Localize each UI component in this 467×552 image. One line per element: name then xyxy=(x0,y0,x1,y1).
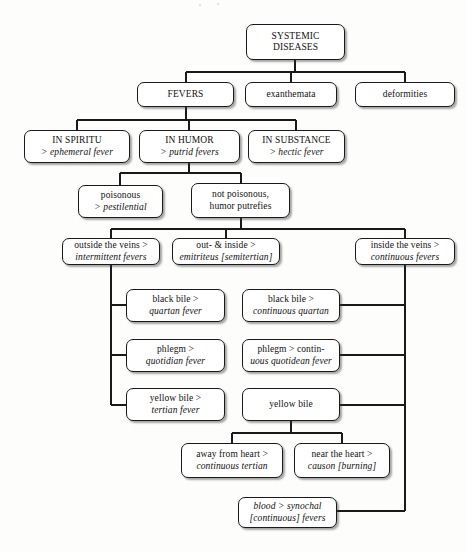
node-inside-the-veins[interactable]: inside the veins > continuous fevers xyxy=(355,238,455,265)
node-label: not poisonous, humor putrefies xyxy=(207,189,275,211)
scan-artifact xyxy=(196,2,232,9)
node-poisonous[interactable]: poisonous > pestilential xyxy=(78,185,163,218)
node-label: IN SPIRITU > ephemeral fever xyxy=(38,135,116,157)
flowchart-diagram: SYSTEMIC DISEASES FEVERS exanthemata def… xyxy=(0,0,467,552)
node-out-and-inside[interactable]: out- & inside > emitriteus [semitertian] xyxy=(172,238,280,265)
node-yellow-bile[interactable]: yellow bile xyxy=(242,388,340,421)
node-systemic-diseases[interactable]: SYSTEMIC DISEASES xyxy=(246,24,345,60)
node-in-substance[interactable]: IN SUBSTANCE > hectic fever xyxy=(248,130,345,163)
node-yellow-bile-tertian[interactable]: yellow bile > tertian fever xyxy=(126,388,225,421)
node-label: blood > synochal [continuous] fevers xyxy=(246,501,328,523)
node-label: IN SUBSTANCE > hectic fever xyxy=(259,135,333,157)
node-label: yellow bile xyxy=(266,399,316,410)
node-black-bile-quartan[interactable]: black bile > quartan fever xyxy=(126,289,225,322)
node-label: SYSTEMIC DISEASES xyxy=(269,31,323,53)
node-in-spiritu[interactable]: IN SPIRITU > ephemeral fever xyxy=(24,130,130,163)
node-label: near the heart > causon [burning] xyxy=(305,449,379,471)
node-label: outside the veins > intermittent fevers xyxy=(71,240,150,262)
node-deformities[interactable]: deformities xyxy=(355,82,455,107)
node-label: black bile > quartan fever xyxy=(146,294,205,316)
node-label: deformities xyxy=(380,89,430,100)
node-label: away from heart > continuous tertian xyxy=(193,449,271,471)
node-label: inside the veins > continuous fevers xyxy=(368,240,443,262)
node-outside-the-veins[interactable]: outside the veins > intermittent fevers xyxy=(62,238,160,265)
node-black-bile-continuous-quartan[interactable]: black bile > continuous quartan xyxy=(242,289,340,322)
node-near-the-heart[interactable]: near the heart > causon [burning] xyxy=(294,443,390,478)
node-label: IN HUMOR > putrid fevers xyxy=(157,135,222,157)
node-fevers[interactable]: FEVERS xyxy=(137,82,234,107)
node-label: phlegm > quotidian fever xyxy=(143,344,208,366)
node-phlegm-continuous-quotidean[interactable]: phlegm > contin- uous quotidean fever xyxy=(242,339,340,372)
node-label: black bile > continuous quartan xyxy=(250,294,332,316)
node-in-humor[interactable]: IN HUMOR > putrid fevers xyxy=(139,130,240,163)
node-label: yellow bile > tertian fever xyxy=(147,393,205,415)
node-label: out- & inside > emitriteus [semitertian] xyxy=(177,240,276,262)
node-label: poisonous > pestilential xyxy=(91,190,149,212)
node-label: FEVERS xyxy=(165,89,207,100)
node-label: exanthemata xyxy=(263,89,318,100)
node-phlegm-quotidian[interactable]: phlegm > quotidian fever xyxy=(126,339,225,372)
node-label: phlegm > contin- uous quotidean fever xyxy=(247,344,335,366)
node-exanthemata[interactable]: exanthemata xyxy=(245,82,337,107)
node-not-poisonous[interactable]: not poisonous, humor putrefies xyxy=(191,183,290,218)
node-away-from-heart[interactable]: away from heart > continuous tertian xyxy=(181,443,283,478)
node-blood-synochal[interactable]: blood > synochal [continuous] fevers xyxy=(238,497,337,528)
